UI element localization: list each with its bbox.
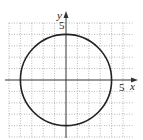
y-tick-five: 5 (59, 20, 65, 31)
graph (0, 0, 143, 140)
x-tick-five: 5 (119, 82, 125, 93)
y-axis-arrow-icon (64, 11, 69, 18)
x-axis-label: x (130, 81, 135, 92)
axes (5, 15, 134, 138)
